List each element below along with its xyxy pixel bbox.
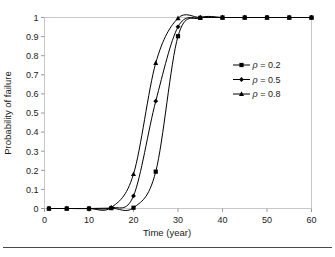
y-tick-label: 0.7 bbox=[26, 70, 39, 80]
y-tick-label: 1 bbox=[33, 13, 38, 23]
chart-background bbox=[0, 0, 335, 257]
x-axis-title: Time (year) bbox=[143, 227, 191, 238]
data-point-marker bbox=[154, 170, 158, 174]
y-tick-label: 0.5 bbox=[26, 108, 39, 118]
legend-label: ρ = 0.5 bbox=[252, 75, 281, 85]
x-tick-label: 20 bbox=[128, 215, 138, 225]
x-tick-label: 50 bbox=[262, 215, 272, 225]
y-tick-label: 0.2 bbox=[26, 166, 39, 176]
data-point-marker bbox=[176, 34, 180, 38]
legend-marker-square bbox=[239, 63, 243, 67]
data-point-marker bbox=[131, 206, 135, 210]
y-tick-label: 0.9 bbox=[26, 32, 39, 42]
y-tick-label: 0.4 bbox=[26, 127, 39, 137]
y-tick-label: 0 bbox=[33, 204, 38, 214]
y-tick-label: 0.8 bbox=[26, 51, 39, 61]
x-tick-label: 40 bbox=[217, 215, 227, 225]
y-tick-label: 0.3 bbox=[26, 147, 39, 157]
y-tick-label: 0.1 bbox=[26, 185, 39, 195]
legend-label: ρ = 0.8 bbox=[252, 89, 281, 99]
x-tick-label: 30 bbox=[173, 215, 183, 225]
probability-of-failure-chart: 0102030405060 00.10.20.30.40.50.60.70.80… bbox=[0, 0, 335, 257]
x-tick-label: 0 bbox=[42, 215, 47, 225]
legend-label: ρ = 0.2 bbox=[252, 60, 281, 70]
y-tick-label: 0.6 bbox=[26, 89, 39, 99]
chart-legend: ρ = 0.2ρ = 0.5ρ = 0.8 bbox=[233, 60, 280, 99]
y-axis-title: Probability of failure bbox=[2, 71, 13, 154]
x-tick-label: 10 bbox=[84, 215, 94, 225]
x-tick-label: 60 bbox=[306, 215, 316, 225]
